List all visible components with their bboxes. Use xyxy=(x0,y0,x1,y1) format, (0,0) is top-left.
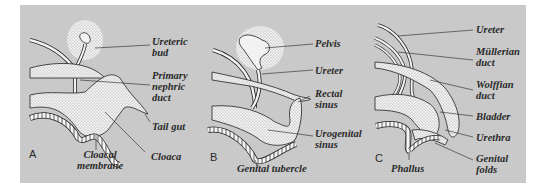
label-ureter: Ureter xyxy=(315,65,343,76)
label-line: Urogenital xyxy=(315,128,362,139)
label-line: Wolffian xyxy=(476,79,514,90)
label-line: Genital xyxy=(476,153,508,164)
panel-a-drawing xyxy=(30,20,150,165)
label-cloacal-membrane: Cloacal membrane xyxy=(77,149,123,171)
label-line: bud xyxy=(152,47,188,58)
label-urethra: Urethra xyxy=(476,132,510,143)
label-line: membrane xyxy=(77,160,123,171)
label-rectal-sinus: Rectal sinus xyxy=(315,88,342,110)
label-phallus: Phallus xyxy=(391,163,424,174)
label-cloaca: Cloaca xyxy=(151,151,181,162)
label-line: folds xyxy=(476,164,508,175)
label-line: Müllerian xyxy=(476,46,520,57)
label-genital-folds: Genital folds xyxy=(476,153,508,175)
label-line: nephric xyxy=(152,81,188,92)
label-line: sinus xyxy=(315,139,362,150)
label-line: Primary xyxy=(152,70,188,81)
label-urogenital-sinus: Urogenital sinus xyxy=(315,128,362,150)
panel-letter-a: A xyxy=(29,148,36,160)
label-tail-gut: Tail gut xyxy=(152,121,185,132)
label-wolffian-duct: Wolffian duct xyxy=(476,79,514,101)
label-ureter-c: Ureter xyxy=(476,24,504,35)
label-line: duct xyxy=(476,90,514,101)
panel-c-drawing xyxy=(375,25,473,160)
label-bladder: Bladder xyxy=(476,111,510,122)
label-primary-nephric-duct: Primary nephric duct xyxy=(152,70,188,103)
label-ureteric-bud: Ureteric bud xyxy=(152,36,188,58)
label-mullerian-duct: Müllerian duct xyxy=(476,46,520,68)
label-line: duct xyxy=(152,92,188,103)
label-line: sinus xyxy=(315,99,342,110)
label-line: Ureteric xyxy=(152,36,188,47)
panel-letter-b: B xyxy=(210,151,217,163)
panel-letter-c: C xyxy=(375,152,383,164)
label-genital-tubercle: Genital tubercle xyxy=(237,163,307,174)
label-pelvis: Pelvis xyxy=(315,38,341,49)
panel-b-drawing xyxy=(208,26,313,168)
label-line: Cloacal xyxy=(77,149,123,160)
label-line: Rectal xyxy=(315,88,342,99)
label-line: duct xyxy=(476,57,520,68)
